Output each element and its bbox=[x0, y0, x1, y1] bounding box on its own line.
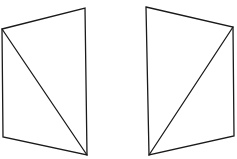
right-quadrilateral-outline bbox=[146, 7, 234, 155]
right-quadrilateral bbox=[146, 7, 234, 155]
left-quadrilateral bbox=[2, 8, 87, 155]
diagram-canvas bbox=[0, 0, 237, 159]
left-quadrilateral-outline bbox=[2, 8, 87, 155]
left-quadrilateral-diagonal bbox=[2, 29, 87, 155]
right-quadrilateral-diagonal bbox=[149, 27, 233, 155]
